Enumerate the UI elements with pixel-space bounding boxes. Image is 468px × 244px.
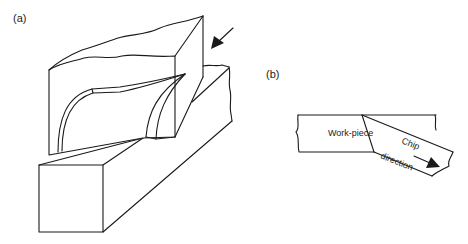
- direction-label: direction: [379, 151, 414, 173]
- cutting-direction-arrow-icon: [211, 28, 233, 49]
- panel-a-label: (a): [13, 12, 26, 24]
- panel-b-label: (b): [266, 68, 279, 80]
- panel-b: (b) Work-piece Chip direction: [266, 68, 453, 176]
- chip-direction-arrow-icon: [414, 156, 440, 168]
- figure: (a): [0, 0, 468, 244]
- panel-a: (a): [13, 12, 233, 232]
- workpiece-label: Work-piece: [328, 128, 373, 138]
- cutting-tool: [49, 16, 203, 155]
